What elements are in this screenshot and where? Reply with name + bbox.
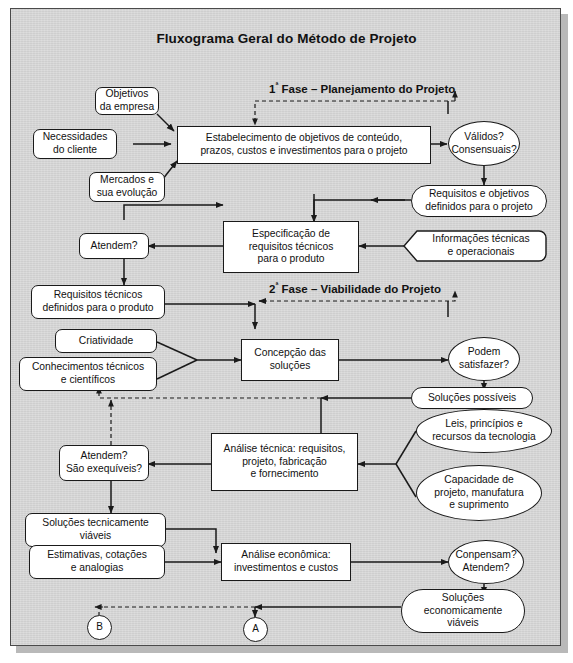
node-especificacao-requisitos[interactable]: Especificação de requisitos técnicos par… [223, 221, 359, 273]
node-label: Leis, princípios e recursos da tecnologi… [432, 418, 536, 443]
node-informacoes-tecnicas[interactable]: Informações técnicas e operacionais [403, 230, 547, 262]
node-solucoes-tecnicamente[interactable]: Soluções tecnicamente viáveis [25, 513, 166, 547]
node-solucoes-possiveis[interactable]: Soluções possíveis [411, 387, 533, 409]
node-label: Conhecimentos técnicos e científicos [32, 361, 144, 386]
page-title: Fluxograma Geral do Método de Projeto [11, 31, 562, 46]
edge-solucoes-tecnicamente-to-analise-economica [166, 529, 216, 553]
edge-objetivos-to-estabelecimento [157, 114, 174, 131]
node-concepcao-solucoes[interactable]: Concepção das soluções [241, 339, 339, 381]
node-atendem-exequiveis[interactable]: Atendem? São exequíveis? [59, 445, 149, 481]
node-label: Capacidade de projeto, manufatura e supr… [434, 474, 523, 512]
node-label: Estimativas, cotações e analogias [47, 549, 147, 574]
node-leis-principios[interactable]: Leis, princípios e recursos da tecnologi… [416, 409, 552, 453]
node-label: Informações técnicas e operacionais [420, 233, 529, 258]
node-connector-b[interactable]: B [87, 615, 112, 640]
node-conpensam-atendem[interactable]: Conpensam? Atendem? [448, 540, 524, 584]
edge-criatividade-merge [157, 342, 197, 360]
node-validos-consensuais[interactable]: Válidos? Consensuais? [448, 121, 520, 166]
node-requisitos-objetivos[interactable]: Requisitos e objetivos definidos para o … [411, 185, 547, 217]
node-podem-satisfazer[interactable]: Podem satisfazer? [448, 337, 520, 381]
node-label: Atendem? São exequíveis? [66, 450, 142, 475]
node-requisitos-tecnicos[interactable]: Requisitos técnicos definidos para o pro… [31, 285, 165, 319]
node-label: Análise econômica: investimentos e custo… [234, 549, 338, 574]
phase-2-label: 2ª Fase – Viabilidade do Projeto [269, 281, 441, 295]
edge-capacidade-merge [396, 464, 416, 497]
node-label: Soluções economicamente viáveis [424, 592, 502, 630]
node-label: Análise técnica: requisitos, projeto, fa… [224, 443, 346, 481]
node-label: B [96, 621, 103, 633]
node-label: Requisitos e objetivos definidos para o … [425, 188, 533, 213]
node-label: Mercados e sua evolução [97, 174, 158, 199]
edge-feedback-to-especificacao-top [124, 205, 223, 220]
node-label: Podem satisfazer? [459, 346, 509, 371]
edge-requisitos-to-especificacao-seg [314, 200, 405, 222]
edge-conhecimentos-merge [157, 360, 197, 379]
node-label: Necessidades do cliente [43, 131, 108, 156]
node-label: Objetivos da empresa [100, 88, 154, 113]
node-label: Soluções tecnicamente viáveis [42, 517, 148, 542]
node-analise-economica[interactable]: Análise econômica: investimentos e custo… [221, 543, 351, 581]
edge-leis-merge [396, 431, 416, 464]
diagram-panel: Fluxograma Geral do Método de Projeto 1ª… [10, 8, 561, 646]
node-label: Atendem? [91, 240, 138, 253]
node-label: Soluções possíveis [428, 392, 516, 405]
edge-phase1-dashed [255, 101, 455, 125]
node-criatividade[interactable]: Criatividade [55, 329, 157, 353]
node-label: Conpensam? Atendem? [455, 549, 516, 574]
node-label: Concepção das soluções [254, 347, 326, 372]
phase-1-label: 1ª Fase – Planejamento do Projeto [269, 81, 455, 95]
node-estabelecimento-objetivos[interactable]: Estabelecimento de objetivos de conteúdo… [177, 126, 431, 164]
node-necessidades-cliente[interactable]: Necessidades do cliente [33, 129, 117, 159]
node-solucoes-economicamente[interactable]: Soluções economicamente viáveis [401, 589, 525, 633]
node-atendem[interactable]: Atendem? [79, 233, 149, 259]
node-label: A [252, 623, 259, 635]
node-label: Especificação de requisitos técnicos par… [249, 228, 334, 266]
edge-dashed-rail-to-b [99, 607, 255, 615]
node-label: Válidos? Consensuais? [451, 131, 516, 156]
node-label: Requisitos técnicos definidos para o pro… [42, 289, 153, 314]
node-capacidade-projeto[interactable]: Capacidade de projeto, manufatura e supr… [416, 465, 542, 521]
node-analise-tecnica[interactable]: Análise técnica: requisitos, projeto, fa… [211, 433, 358, 491]
diagram-canvas: Fluxograma Geral do Método de Projeto 1ª… [0, 0, 573, 663]
node-objetivos-empresa[interactable]: Objetivos da empresa [95, 87, 159, 115]
node-estimativas-cotacoes[interactable]: Estimativas, cotações e analogias [29, 545, 165, 579]
node-connector-a[interactable]: A [243, 617, 268, 642]
node-label: Estabelecimento de objetivos de conteúdo… [200, 132, 407, 157]
node-label: Criatividade [79, 335, 133, 348]
node-conhecimentos[interactable]: Conhecimentos técnicos e científicos [19, 357, 157, 391]
node-mercados-evolucao[interactable]: Mercados e sua evolução [89, 172, 165, 202]
